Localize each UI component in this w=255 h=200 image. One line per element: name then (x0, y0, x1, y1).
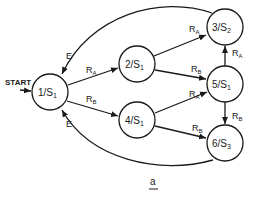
state-6: 6/S3 (207, 125, 243, 161)
state-5: 5/S1 (207, 66, 243, 102)
state-diagram: START RA RB E E RA RB RA RB RA RB 1/S1 2… (0, 0, 255, 200)
state-1: 1/S1 (32, 74, 68, 110)
edge-label-4-6: RB (192, 123, 203, 134)
start-label: START (5, 78, 31, 87)
edge-label-6-1: E (66, 119, 72, 129)
edge-label-5-3: RA (232, 48, 243, 59)
edge-label-2-3: RA (189, 24, 200, 35)
edge-label-1-2: RA (86, 65, 97, 76)
edge-label-1-4: RB (86, 94, 97, 105)
edge-label-4-5: RA (189, 89, 200, 100)
start-marker: START (5, 78, 31, 91)
state-4: 4/S1 (119, 102, 155, 138)
edge-label-5-6: RB (232, 111, 243, 122)
edge-label-2-5: RB (191, 64, 202, 75)
state-2: 2/S1 (119, 46, 155, 82)
edge-2-3 (154, 35, 206, 56)
figure-caption: a (150, 176, 156, 187)
edge-label-3-1: E (66, 51, 72, 61)
start-arrow (20, 90, 31, 91)
state-3: 3/S2 (207, 9, 243, 45)
